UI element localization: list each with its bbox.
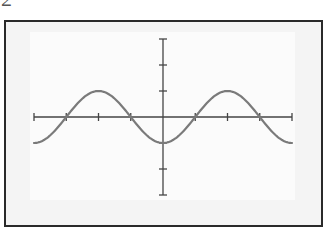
function-graph: [0, 0, 325, 229]
